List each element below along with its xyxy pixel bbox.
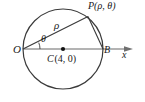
label-center-coords: (4, 0): [55, 53, 77, 64]
label-x-axis: x: [122, 50, 126, 60]
label-rho: ρ: [54, 20, 59, 31]
label-center: C (4, 0): [47, 54, 76, 64]
label-point-p: P(ρ, θ): [88, 1, 115, 11]
label-point-b: B: [104, 45, 110, 55]
theta-angle-arc: [39, 43, 40, 49]
segment-pb: [88, 17, 103, 49]
polar-circle-figure: O B x ρ θ P(ρ, θ) C (4, 0): [0, 0, 145, 102]
label-origin: O: [13, 44, 21, 55]
center-point-dot: [61, 47, 65, 51]
label-theta: θ: [41, 34, 46, 44]
label-center-name: C: [47, 53, 54, 64]
